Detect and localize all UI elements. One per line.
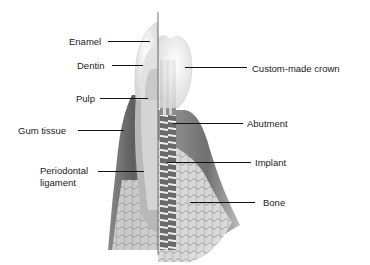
leader-pulp — [100, 98, 148, 99]
label-custom-crown: Custom-made crown — [252, 63, 340, 74]
label-bone: Bone — [263, 197, 285, 208]
leader-abutment — [173, 123, 243, 124]
dental-implant-diagram: Enamel Dentin Pulp Gum tissue Periodonta… — [0, 0, 370, 265]
implant-screw — [160, 110, 176, 250]
leader-implant — [167, 162, 251, 163]
leader-custom-crown — [185, 67, 247, 68]
leader-dentin — [112, 65, 143, 66]
label-pulp: Pulp — [76, 93, 95, 104]
label-periodontal-ligament-2: ligament — [40, 177, 76, 188]
label-abutment: Abutment — [247, 118, 288, 129]
leader-bone — [190, 202, 255, 203]
custom-crown — [158, 35, 192, 108]
leader-enamel — [108, 41, 150, 42]
label-implant: Implant — [255, 157, 286, 168]
leader-periodontal-ligament — [98, 171, 144, 172]
label-enamel: Enamel — [69, 36, 101, 47]
leader-gum-tissue — [78, 130, 124, 131]
label-periodontal-ligament-1: Periodontal — [40, 165, 88, 176]
label-gum-tissue: Gum tissue — [18, 125, 66, 136]
label-dentin: Dentin — [77, 60, 104, 71]
